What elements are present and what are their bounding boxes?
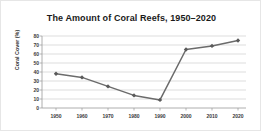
- data-point-1960: [80, 75, 84, 79]
- chart-canvas: [1, 1, 261, 131]
- data-markers: [54, 38, 240, 102]
- x-axis-tick-labels: 1950 1960 1970 1980 1990 2000 2010 2020: [1, 114, 261, 126]
- plot-area: Coral Cover (%) 80 70 60 50 40 30 20 10 …: [1, 1, 261, 131]
- data-point-1980: [132, 93, 136, 97]
- data-point-2020: [236, 38, 240, 42]
- x-tick-label-2020: 2020: [221, 114, 255, 119]
- data-point-1970: [106, 84, 110, 88]
- data-line-coral-cover: [56, 41, 238, 100]
- chart-figure: The Amount of Coral Reefs, 1950–2020 Cor…: [0, 0, 261, 131]
- data-point-2010: [210, 44, 214, 48]
